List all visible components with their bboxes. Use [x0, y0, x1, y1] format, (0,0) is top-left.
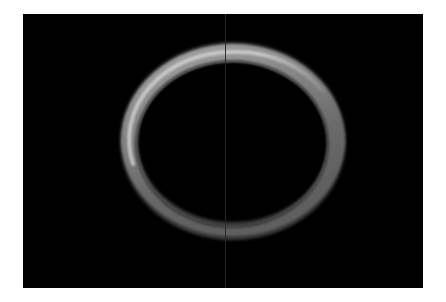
ring-illustration — [23, 14, 423, 288]
vertical-divider-line — [225, 14, 226, 288]
ring-band — [121, 44, 345, 236]
image-frame — [23, 14, 423, 288]
